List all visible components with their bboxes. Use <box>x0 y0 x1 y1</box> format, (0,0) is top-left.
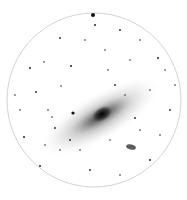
bright-star <box>91 13 95 17</box>
galaxy-image <box>0 0 187 200</box>
